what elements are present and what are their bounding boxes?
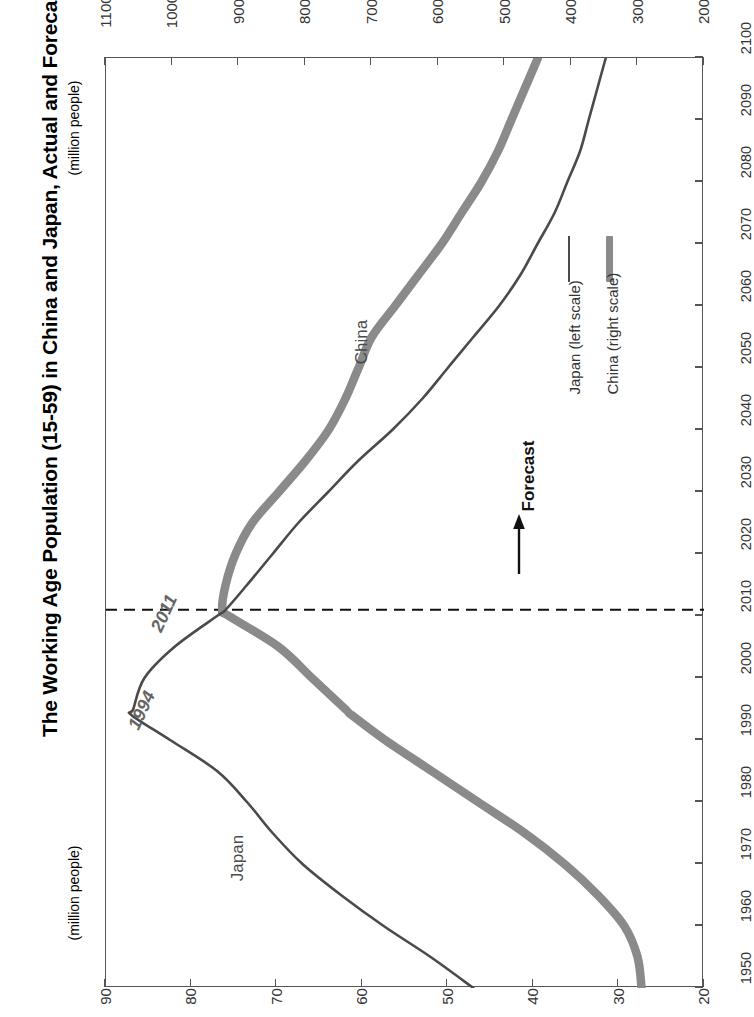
axis-tick-label: 1000 <box>163 0 180 39</box>
year-axis-tick-label: 2070 <box>738 197 754 251</box>
year-axis-tick-label: 2100 <box>738 11 754 65</box>
legend-item: China (right scale) <box>594 236 628 426</box>
axis-tick-label: 600 <box>429 0 446 39</box>
axis-tick-label: 900 <box>229 0 246 39</box>
year-axis-tick-label: 1950 <box>738 941 754 995</box>
axis-tick-mark <box>304 57 305 65</box>
axis-tick-mark <box>104 979 105 987</box>
axis-tick-label: 30 <box>609 970 626 1017</box>
year-axis-tick-mark <box>695 552 703 553</box>
axis-tick-mark <box>275 979 276 987</box>
axis-tick-mark <box>446 979 447 987</box>
year-axis-tick-label: 2020 <box>738 507 754 561</box>
axis-tick-label: 20 <box>695 970 712 1017</box>
china-series-line <box>222 58 641 988</box>
japan-series-line <box>129 58 606 988</box>
year-axis-tick-label: 1990 <box>738 693 754 747</box>
year-axis-tick-mark <box>695 862 703 863</box>
axis-tick-mark <box>702 57 703 65</box>
axis-tick-mark <box>171 57 172 65</box>
axis-tick-label: 40 <box>524 970 541 1017</box>
year-axis-tick-mark <box>695 366 703 367</box>
year-axis-tick-mark <box>695 118 703 119</box>
axis-tick-mark <box>190 979 191 987</box>
year-axis-tick-label: 2080 <box>738 135 754 189</box>
curve-label-japan: Japan <box>228 835 248 881</box>
axis-tick-mark <box>437 57 438 65</box>
legend-label: Japan (left scale) <box>566 235 583 395</box>
curve-label-china: China <box>352 320 372 364</box>
japan-axis-unit-caption: (million people) <box>66 813 82 973</box>
year-axis-tick-label: 1970 <box>738 817 754 871</box>
axis-tick-label: 800 <box>296 0 313 39</box>
year-axis-tick-mark <box>695 180 703 181</box>
axis-tick-mark <box>532 979 533 987</box>
axis-tick-mark <box>503 57 504 65</box>
axis-tick-label: 1100 <box>97 0 114 39</box>
year-axis-tick-label: 2090 <box>738 73 754 127</box>
year-axis-tick-label: 1960 <box>738 879 754 933</box>
axis-tick-label: 60 <box>353 970 370 1017</box>
year-axis-tick-mark <box>695 924 703 925</box>
chart-canvas <box>106 58 704 988</box>
axis-tick-label: 500 <box>495 0 512 39</box>
year-axis-tick-mark <box>695 738 703 739</box>
year-axis-tick-mark <box>695 614 703 615</box>
axis-tick-label: 400 <box>562 0 579 39</box>
legend-item: Japan (left scale) <box>556 236 590 426</box>
page-title: The Working Age Population (15-59) in Ch… <box>38 0 62 737</box>
axis-tick-label: 700 <box>362 0 379 39</box>
forecast-annotation-label: Forecast <box>519 441 539 512</box>
year-axis-tick-mark <box>695 490 703 491</box>
axis-tick-mark <box>237 57 238 65</box>
legend-label: China (right scale) <box>604 235 621 395</box>
year-axis-tick-mark <box>695 428 703 429</box>
year-axis-tick-mark <box>695 986 703 987</box>
year-axis-tick-label: 2010 <box>738 569 754 623</box>
plot-area <box>105 57 703 987</box>
year-axis-tick-label: 2030 <box>738 445 754 499</box>
axis-tick-label: 70 <box>267 970 284 1017</box>
year-axis-tick-mark <box>695 800 703 801</box>
china-axis-unit-caption: (million people) <box>66 48 82 208</box>
legend: Japan (left scale)China (right scale) <box>556 236 626 426</box>
forecast-arrow-icon <box>512 512 526 574</box>
year-axis-tick-label: 2060 <box>738 259 754 313</box>
axis-tick-mark <box>104 57 105 65</box>
year-axis-tick-mark <box>695 242 703 243</box>
year-axis-tick-label: 2040 <box>738 383 754 437</box>
year-axis-tick-mark <box>695 56 703 57</box>
year-axis-tick-label: 2000 <box>738 631 754 685</box>
axis-tick-mark <box>361 979 362 987</box>
axis-tick-label: 50 <box>438 970 455 1017</box>
year-axis-tick-mark <box>695 676 703 677</box>
axis-tick-label: 80 <box>182 970 199 1017</box>
year-axis-tick-label: 1980 <box>738 755 754 809</box>
axis-tick-mark <box>636 57 637 65</box>
year-axis-tick-label: 2050 <box>738 321 754 375</box>
axis-tick-mark <box>617 979 618 987</box>
axis-tick-mark <box>570 57 571 65</box>
axis-tick-label: 200 <box>695 0 712 39</box>
axis-tick-label: 90 <box>97 970 114 1017</box>
axis-tick-mark <box>370 57 371 65</box>
year-axis-tick-mark <box>695 304 703 305</box>
axis-tick-label: 300 <box>628 0 645 39</box>
